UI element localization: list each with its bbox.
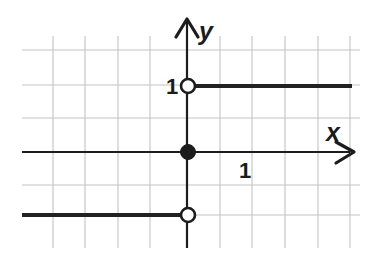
open-circle-marker-lower [181,208,195,222]
x-axis-tick-label-1: 1 [239,160,251,182]
y-axis-tick-label-1: 1 [166,76,178,98]
y-axis-label: y [199,19,213,44]
step-function-figure: y x 1 1 [0,0,380,253]
x-axis-label: x [326,120,340,145]
filled-circle-marker-origin [181,145,196,160]
graph-canvas [0,0,380,253]
open-circle-marker-upper [181,79,195,93]
